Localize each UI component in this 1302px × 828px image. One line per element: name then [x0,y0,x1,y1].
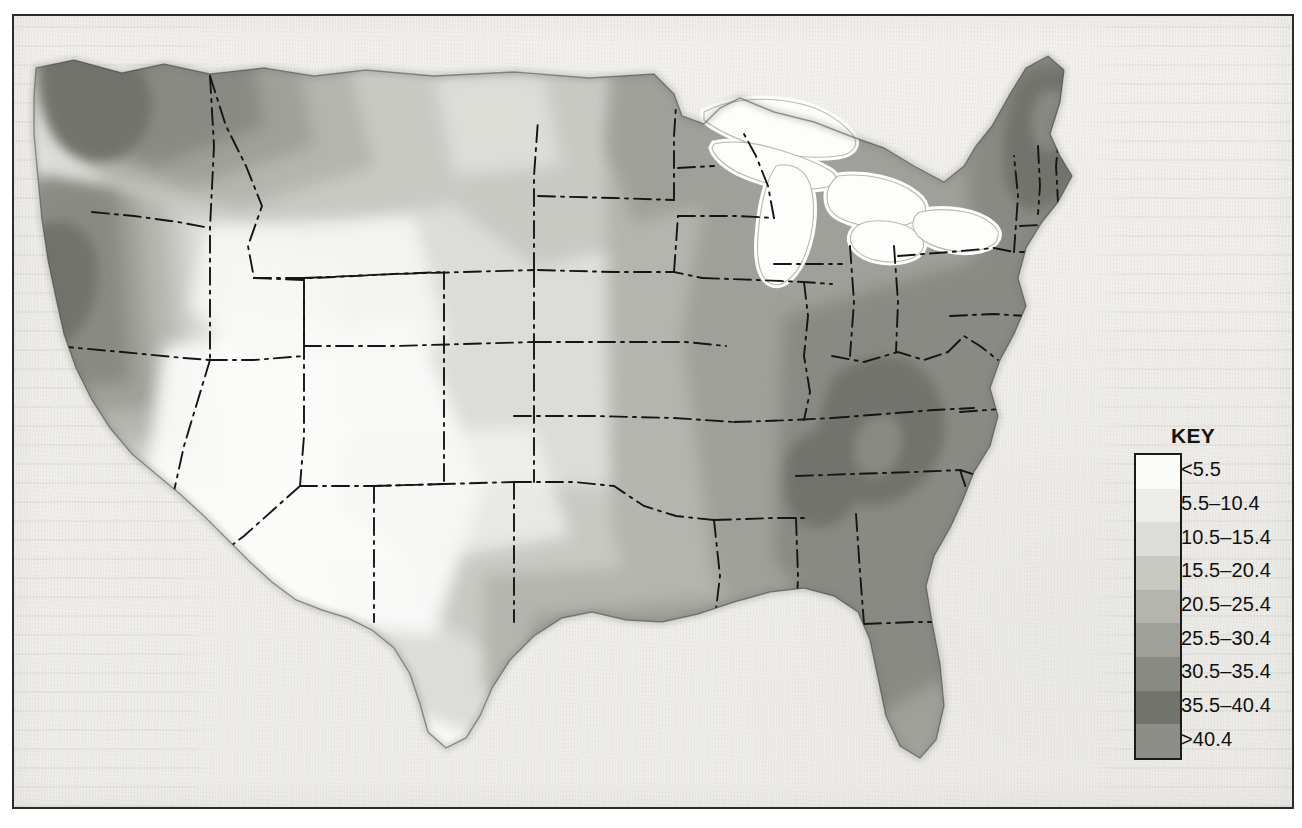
legend-swatch-0 [1136,455,1180,489]
legend-label-0: <5.5 [1181,453,1293,487]
legend-label-4: 20.5–25.4 [1181,588,1293,622]
legend-swatch-4 [1136,590,1180,624]
legend-label-8: >40.4 [1181,722,1293,756]
legend-swatch-3 [1136,556,1180,590]
legend-swatch-1 [1136,489,1180,523]
legend-swatch-8 [1136,724,1180,758]
legend-label-2: 10.5–15.4 [1181,520,1293,554]
legend-label-3: 15.5–20.4 [1181,554,1293,588]
legend-label-5: 25.5–30.4 [1181,621,1293,655]
figure-frame: KEY <5.5 5.5–10.4 10.5–15.4 15.5–20.4 20… [12,14,1294,809]
us-choropleth-map [14,16,1292,807]
legend-swatch-5 [1136,623,1180,657]
legend-swatch-7 [1136,691,1180,725]
legend-swatch-2 [1136,522,1180,556]
legend-label-6: 30.5–35.4 [1181,655,1293,689]
legend-swatch-6 [1136,657,1180,691]
legend-title: KEY [1171,424,1215,448]
legend-label-1: 5.5–10.4 [1181,487,1293,521]
choropleth-surface [14,16,1292,807]
map-legend: KEY <5.5 5.5–10.4 10.5–15.4 15.5–20.4 20… [1123,420,1293,772]
legend-label-7: 35.5–40.4 [1181,689,1293,723]
legend-swatch-column [1134,453,1182,760]
legend-label-column: <5.5 5.5–10.4 10.5–15.4 15.5–20.4 20.5–2… [1181,453,1293,756]
figure-page: KEY <5.5 5.5–10.4 10.5–15.4 15.5–20.4 20… [0,0,1302,828]
